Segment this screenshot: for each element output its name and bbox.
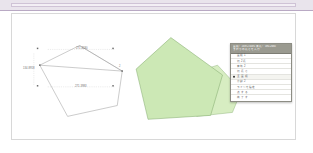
- radio-selected-icon: [233, 75, 236, 78]
- handle-top-left: [37, 48, 38, 49]
- application-window: 271.4180 271.3983 134.8918 2 面積：16972.64…: [0, 0, 313, 153]
- right-polygon-group: [136, 38, 241, 120]
- handle-vertex-right: [121, 70, 122, 71]
- dimension-label-middle: 271.3983: [75, 85, 87, 88]
- drawing-canvas[interactable]: 271.4180 271.3983 134.8918 2 面積：16972.64…: [11, 13, 296, 140]
- context-menu-item-1-label: 辺 2 長: [237, 60, 246, 63]
- top-band-inner: [11, 3, 296, 7]
- dimension-label-top: 271.4180: [76, 47, 88, 50]
- context-menu-item-0-label: 面積 1: [237, 54, 246, 57]
- context-menu-item-3-label: 辺 長 さ: [237, 70, 248, 73]
- handle-mid-right: [112, 85, 113, 86]
- top-band: [0, 0, 313, 11]
- context-menu-item-2-label: 有効 2: [237, 65, 246, 68]
- context-menu-header-line-2: まわりの長さを入力: [233, 48, 290, 51]
- dimension-label-left: 134.8918: [23, 67, 35, 70]
- left-polygon-outline: [40, 45, 122, 116]
- parcel-polygon-main: [136, 38, 222, 120]
- handle-top-right: [112, 48, 113, 49]
- context-menu-item-8[interactable]: 終 了 す: [231, 95, 291, 100]
- context-menu-item-5-label: 分割 2: [237, 80, 246, 83]
- vertex-label-2: 2: [119, 65, 120, 68]
- context-menu-header: 面積：16972.6491 周長：590.2680 まわりの長さを入力: [231, 44, 291, 54]
- selection-handles: [37, 48, 123, 87]
- left-polygon-group: [34, 45, 123, 116]
- handle-mid-left: [37, 85, 38, 86]
- handle-vertex-left: [39, 64, 40, 65]
- context-menu-item-8-label: 終 了 す: [237, 96, 248, 99]
- context-menu-item-7-label: 点 す る: [237, 91, 248, 94]
- context-menu-list[interactable]: 面積 1 辺 2 長 有効 2 辺 長 さ 全 面 積 分割 2: [231, 54, 291, 101]
- context-menu-item-4-label: 全 面 積: [237, 75, 248, 78]
- left-polygon-chord: [40, 65, 122, 71]
- context-menu-item-6-label: ラインを指定: [237, 86, 256, 89]
- context-menu[interactable]: 面積：16972.6491 周長：590.2680 まわりの長さを入力 面積 1…: [230, 43, 292, 102]
